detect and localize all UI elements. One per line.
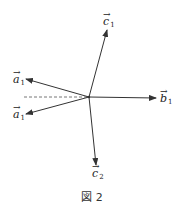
vector-arrow-icon: → [13,103,21,112]
label-a1-upper: →a1 [13,74,25,85]
label-c1: →c1 [103,16,115,27]
figure-caption: 図 2 [80,188,104,204]
vector-c1-arrow [89,30,107,97]
vector-arrow-icon: → [92,162,100,171]
vector-arrow-icon: → [160,87,168,96]
vector-diagram: →a1 →a1 →b1 →c1 →c2 図 2 [0,0,178,215]
vector-a1-upper-arrow [26,79,89,97]
label-a1-lower: →a1 [13,109,25,120]
vector-c2-arrow [89,97,96,165]
origin-point [88,96,90,98]
diagram-canvas [0,0,178,215]
label-c2: →c2 [92,168,104,179]
vector-arrow-icon: → [13,68,21,77]
label-b1: →b1 [160,93,173,104]
vector-a1-lower-arrow [26,97,89,114]
vector-b1-arrow [89,97,156,98]
vector-arrow-icon: → [103,10,111,19]
